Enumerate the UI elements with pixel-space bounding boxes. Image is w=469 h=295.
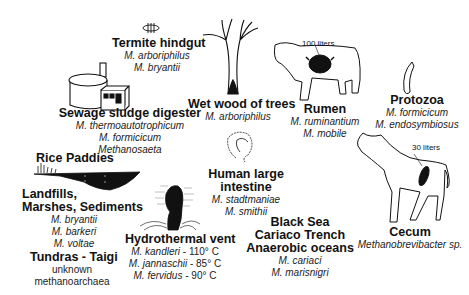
- habitat-anaerobic-oceans: Black Sea Cariaco Trench Anaerobic ocean…: [245, 216, 355, 279]
- habitat-title: Marshes, Sediments: [22, 201, 126, 214]
- termite-icon: [143, 23, 159, 33]
- species-name: M. formicicum: [55, 132, 205, 144]
- species-name: M. arboriphilus: [188, 111, 288, 123]
- habitat-title: Hydrothermal vent: [125, 233, 225, 246]
- rice-paddy-icon: [34, 163, 140, 190]
- species-row: M. fervidus - 90° C: [125, 270, 225, 282]
- organism-note: methanoarchaea: [30, 276, 114, 288]
- species-name: M. mobile: [290, 128, 360, 140]
- species-name: M. marisnigri: [245, 267, 355, 279]
- species-name: M. voltae: [22, 238, 126, 250]
- species-name: M. fervidus: [134, 270, 183, 281]
- habitat-rumen: Rumen M. ruminantium M. mobile: [290, 103, 360, 140]
- species-name: Methanobrevibacter sp.: [355, 239, 465, 251]
- temperature: - 85° C: [187, 258, 221, 269]
- habitat-title: Wet wood of trees: [188, 98, 288, 111]
- intestine-icon: [228, 132, 252, 162]
- habitat-title: intestine: [208, 181, 284, 194]
- habitat-termite-hindgut: Termite hindgut M. arboriphilus M. bryan…: [112, 37, 202, 74]
- species-name: M. jannaschii: [129, 258, 187, 269]
- species-name: M. arboriphilus: [112, 50, 202, 62]
- habitat-title: Termite hindgut: [112, 37, 202, 50]
- species-name: M. ruminantium: [290, 116, 360, 128]
- habitat-wet-wood: Wet wood of trees M. arboriphilus: [188, 98, 288, 123]
- protozoa-icon: [404, 62, 414, 94]
- habitat-sewage-digester: Sewage sludge digester M. thermoautotrop…: [55, 107, 205, 156]
- hydrothermal-vent-icon: [140, 186, 200, 230]
- tree-icon: [203, 19, 258, 94]
- species-name: M. formicicum: [367, 107, 467, 119]
- species-name: M. cariaci: [245, 255, 355, 267]
- habitat-title: Rumen: [290, 103, 360, 116]
- species-name: M. endosymbiosus: [367, 119, 467, 131]
- species-row: M. jannaschii - 85° C: [125, 258, 225, 270]
- species-name: M. thermoautotrophicum: [55, 120, 205, 132]
- rumen-volume-note: 100 liters: [302, 39, 334, 48]
- temperature: - 90° C: [182, 270, 216, 281]
- species-name: M. stadtmaniae: [208, 194, 284, 206]
- species-name: M. barkeri: [22, 226, 126, 238]
- habitat-human-intestine: Human large intestine M. stadtmaniae M. …: [208, 168, 284, 218]
- habitat-title: Tundras - Taigi: [30, 251, 114, 264]
- species-row: M. kandleri - 110° C: [125, 246, 225, 258]
- habitat-title: Anaerobic oceans: [245, 242, 355, 255]
- cow-icon: [274, 43, 360, 100]
- habitat-cecum: Cecum Methanobrevibacter sp.: [355, 226, 465, 251]
- habitat-title: Sewage sludge digester: [55, 107, 205, 120]
- species-name: M. bryantii: [112, 62, 202, 74]
- habitat-rice-paddies: Rice Paddies: [36, 152, 106, 165]
- cecum-volume-note: 30 liters: [412, 143, 440, 152]
- habitat-landfills: Landfills, Marshes, Sediments M. bryanti…: [22, 188, 126, 250]
- habitat-title: Cecum: [355, 226, 465, 239]
- habitat-title: Protozoa: [367, 94, 467, 107]
- temperature: - 110° C: [180, 246, 219, 257]
- organism-note: unknown: [30, 264, 114, 276]
- habitat-protozoa: Protozoa M. formicicum M. endosymbiosus: [367, 94, 467, 131]
- habitat-title: Rice Paddies: [36, 152, 106, 165]
- habitat-hydrothermal-vent: Hydrothermal vent M. kandleri - 110° C M…: [125, 233, 225, 282]
- species-name: M. kandleri: [131, 246, 180, 257]
- habitat-tundras: Tundras - Taigi unknown methanoarchaea: [30, 251, 114, 288]
- species-name: M. bryantii: [22, 214, 126, 226]
